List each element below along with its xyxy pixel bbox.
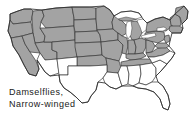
state-montana <box>41 7 74 28</box>
state-south-dakota <box>74 19 97 32</box>
state-washington <box>10 9 33 24</box>
state-ohio <box>134 38 146 54</box>
state-minnesota <box>96 6 114 30</box>
state-florida <box>133 82 170 110</box>
state-new-jersey <box>164 35 170 43</box>
state-massachusetts-connecticut-rhodeisland <box>169 26 183 33</box>
range-map-figure: Damselflies, Narrow-winged <box>0 0 196 119</box>
caption-line-2: Narrow-winged <box>9 98 75 110</box>
state-nebraska <box>75 31 101 43</box>
map-caption: Damselflies, Narrow-winged <box>9 86 75 110</box>
state-wyoming <box>40 26 75 42</box>
state-kansas <box>75 42 102 57</box>
state-maryland-delaware <box>155 43 169 48</box>
caption-line-1: Damselflies, <box>9 86 75 98</box>
state-north-dakota <box>72 7 96 20</box>
